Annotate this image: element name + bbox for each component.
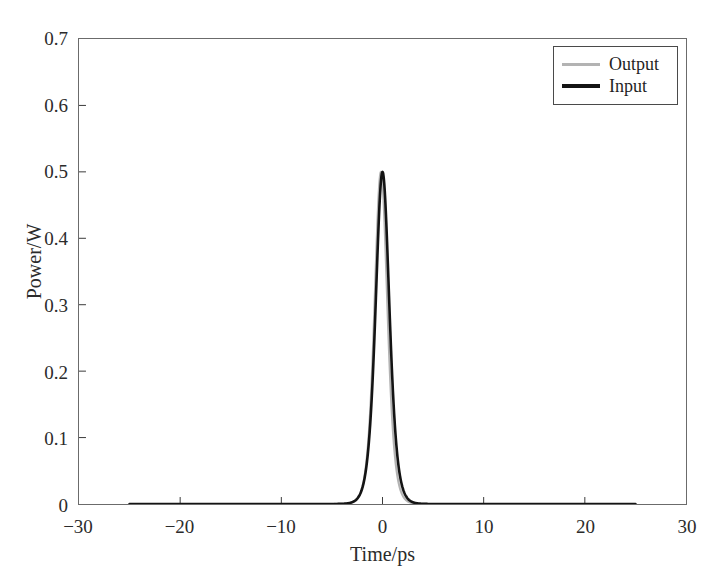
legend-label-input: Input [609, 77, 647, 95]
x-tick-label: 20 [576, 517, 595, 536]
legend-label-output: Output [609, 55, 659, 73]
legend-item-output: Output [562, 53, 669, 75]
y-tick-label: 0.1 [0, 429, 68, 448]
x-tick-label: −20 [165, 517, 195, 536]
legend-swatch-input [562, 84, 600, 88]
x-tick-label: −30 [63, 517, 93, 536]
x-tick-label: 0 [378, 517, 388, 536]
legend-swatch-output [562, 63, 600, 66]
series-line-input [130, 172, 636, 504]
y-tick-label: 0.6 [0, 95, 68, 114]
x-tick-label: −10 [266, 517, 296, 536]
axis-ticks [79, 105, 585, 504]
chart-figure: Power/W 00.10.20.30.40.50.60.7 −30−20−10… [0, 0, 728, 585]
chart-legend: Output Input [553, 46, 678, 105]
plot-canvas [79, 39, 686, 504]
y-tick-label: 0.5 [0, 162, 68, 181]
plot-area [78, 38, 687, 505]
data-series-group [130, 172, 636, 504]
y-tick-label: 0.3 [0, 295, 68, 314]
y-tick-label: 0.7 [0, 29, 68, 48]
y-tick-label: 0 [0, 496, 68, 515]
x-axis-title: Time/ps [78, 543, 687, 566]
legend-item-input: Input [562, 75, 669, 97]
x-tick-label: 10 [475, 517, 494, 536]
y-tick-label: 0.4 [0, 229, 68, 248]
y-tick-label: 0.2 [0, 362, 68, 381]
x-tick-label: 30 [678, 517, 697, 536]
series-line-output [130, 172, 636, 504]
